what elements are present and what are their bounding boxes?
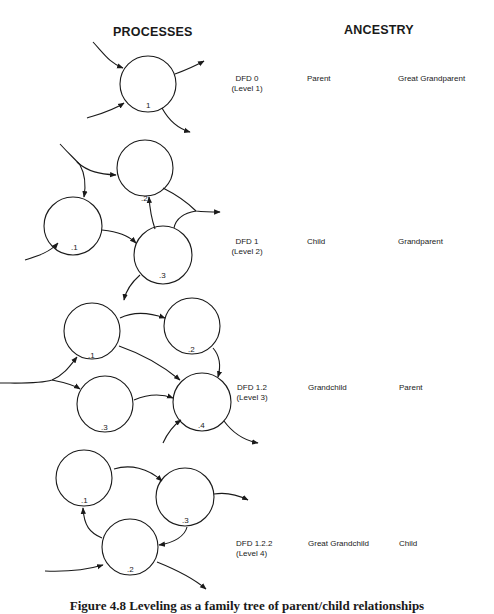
- process-label: .2: [141, 194, 148, 203]
- process-label: .3: [101, 423, 108, 432]
- flow-arrow: [149, 197, 155, 229]
- flow-arrow: [162, 108, 190, 132]
- flow-arrow: [60, 144, 85, 197]
- process-label: .3: [182, 516, 189, 525]
- flow-arrow: [102, 230, 136, 243]
- flow-arrow: [163, 188, 220, 212]
- process-label: .2: [188, 345, 195, 354]
- flow-arrow: [87, 103, 124, 118]
- flow-arrow: [163, 420, 181, 443]
- process-label: 1: [146, 101, 151, 110]
- flow-arrow: [52, 380, 80, 389]
- flow-arrow: [134, 395, 173, 400]
- flow-arrow: [224, 421, 258, 443]
- process-label: .1: [71, 243, 78, 252]
- process-label: .2: [127, 565, 134, 574]
- level-2-diagram: [25, 140, 220, 300]
- level-1-diagram: [87, 42, 204, 132]
- process-label: .1: [81, 496, 88, 505]
- flow-arrow: [93, 42, 123, 68]
- flow-arrow: [114, 467, 162, 481]
- flow-arrow: [157, 562, 206, 589]
- flow-arrow: [159, 527, 187, 545]
- flow-arrow: [120, 313, 165, 318]
- flow-arrow: [25, 243, 58, 260]
- process-circle-2: [117, 140, 173, 196]
- flow-arrow: [0, 357, 77, 383]
- process-label: .1: [88, 351, 95, 360]
- flow-arrow: [214, 493, 248, 500]
- process-label: .3: [159, 271, 166, 280]
- flow-arrow: [174, 211, 196, 228]
- flow-arrow: [119, 346, 180, 380]
- process-label: .4: [198, 421, 205, 430]
- figure-caption: Figure 4.8 Leveling as a family tree of …: [0, 598, 494, 614]
- flow-arrow: [45, 565, 103, 571]
- level-4-diagram: [45, 450, 248, 589]
- flow-arrow: [213, 348, 220, 377]
- flow-arrow: [175, 61, 204, 74]
- process-labels: 1 .1 .2 .3 .1 .2 .3 .4 .1 .3 .2: [71, 101, 205, 574]
- flow-arrow: [124, 275, 140, 300]
- level-3-diagram: [0, 298, 258, 443]
- flow-arrow: [83, 508, 102, 538]
